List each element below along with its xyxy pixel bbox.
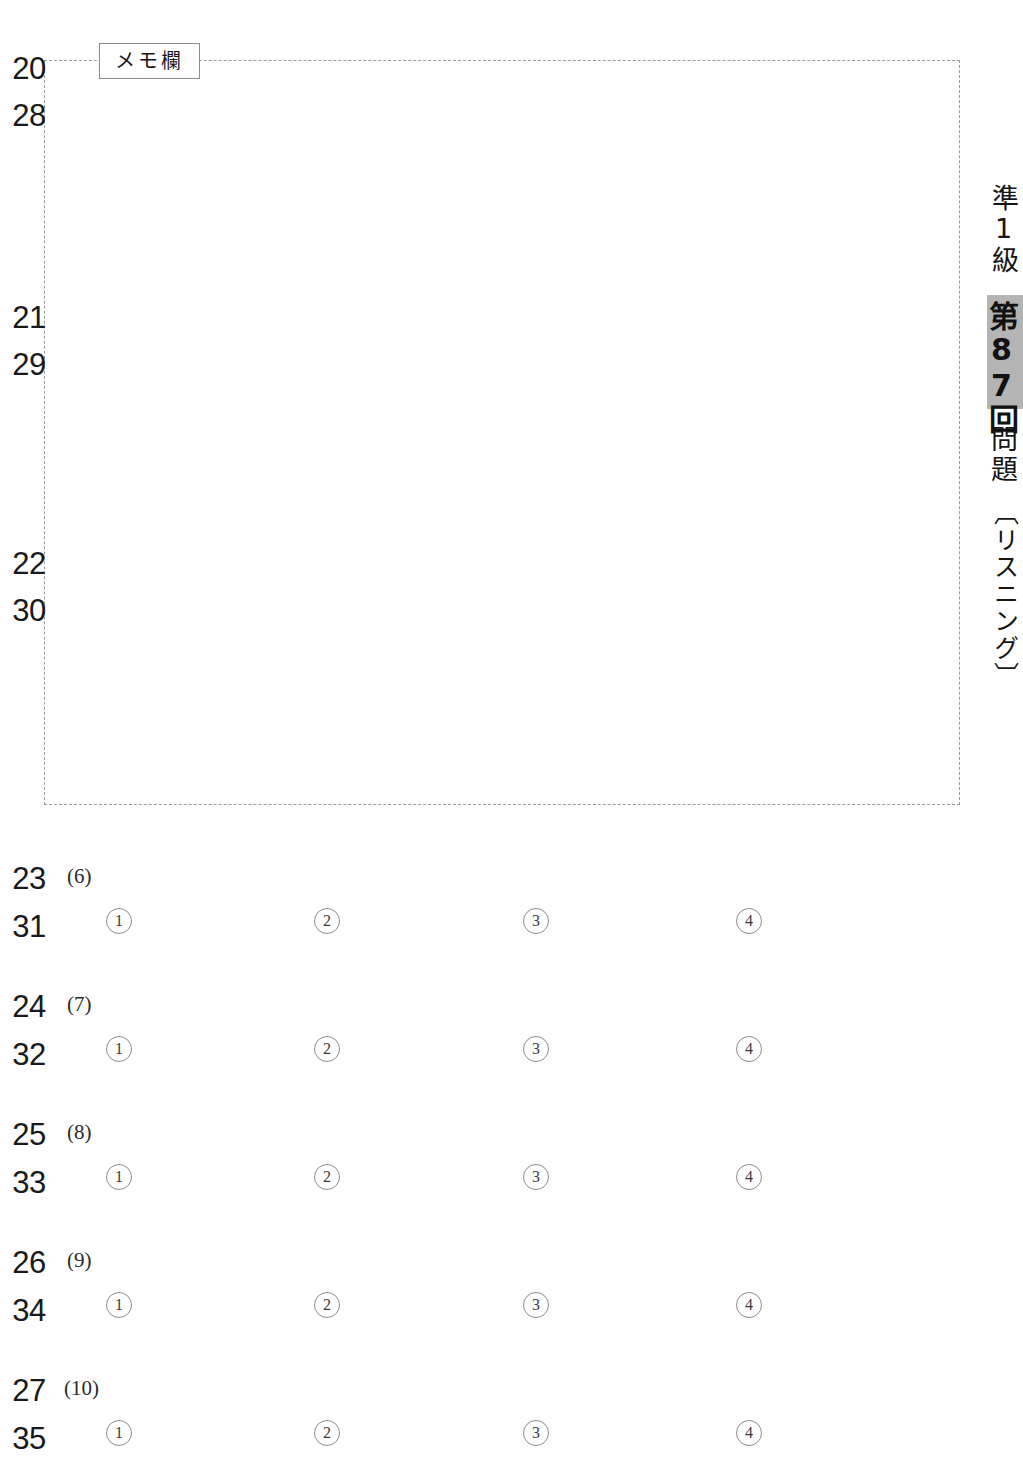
- question-8-option-4[interactable]: 4: [736, 1164, 762, 1190]
- question-7-option-1[interactable]: 1: [106, 1036, 132, 1062]
- answer-marker-label: 33: [12, 1165, 45, 1200]
- question-number-10: (10): [64, 1376, 99, 1401]
- answer-marker-label: 24: [12, 989, 45, 1024]
- question-9-option-3[interactable]: 3: [523, 1292, 549, 1318]
- session-label: 第87回: [983, 301, 1023, 435]
- answer-marker-label: 30: [12, 593, 45, 628]
- answer-marker-label: 21: [12, 300, 45, 335]
- section-label: 〔リスニング〕: [984, 500, 1022, 689]
- answer-marker-20: 20: [2, 46, 56, 92]
- answer-marker-label: 34: [12, 1293, 45, 1328]
- answer-marker-label: 28: [12, 98, 45, 133]
- question-6-option-2[interactable]: 2: [314, 908, 340, 934]
- answer-marker-26: 26: [2, 1240, 56, 1286]
- question-8-option-3[interactable]: 3: [523, 1164, 549, 1190]
- answer-marker-label: 25: [12, 1117, 45, 1152]
- answer-marker-30: 30: [2, 588, 56, 634]
- memo-area[interactable]: [44, 60, 960, 805]
- grade-label: 準1級: [985, 184, 1023, 275]
- answer-marker-28: 28: [2, 93, 56, 139]
- questions-label: 問題: [984, 425, 1022, 485]
- question-7-option-2[interactable]: 2: [314, 1036, 340, 1062]
- question-number-8: (8): [67, 1120, 92, 1145]
- answer-marker-34: 34: [2, 1288, 56, 1334]
- question-6-option-4[interactable]: 4: [736, 908, 762, 934]
- answer-marker-label: 22: [12, 546, 45, 581]
- question-7-option-4[interactable]: 4: [736, 1036, 762, 1062]
- answer-marker-label: 32: [12, 1037, 45, 1072]
- question-9-option-2[interactable]: 2: [314, 1292, 340, 1318]
- answer-marker-label: 27: [12, 1373, 45, 1408]
- question-10-option-2[interactable]: 2: [314, 1420, 340, 1446]
- memo-area-label: メモ欄: [99, 43, 200, 79]
- question-8-option-1[interactable]: 1: [106, 1164, 132, 1190]
- answer-marker-label: 20: [12, 51, 45, 86]
- question-10-option-3[interactable]: 3: [523, 1420, 549, 1446]
- question-9-option-4[interactable]: 4: [736, 1292, 762, 1318]
- question-number-6: (6): [67, 864, 92, 889]
- question-number-7: (7): [67, 992, 92, 1017]
- question-number-9: (9): [67, 1248, 92, 1273]
- question-7-option-3[interactable]: 3: [523, 1036, 549, 1062]
- answer-marker-label: 26: [12, 1245, 45, 1280]
- answer-marker-25: 25: [2, 1112, 56, 1158]
- question-10-option-1[interactable]: 1: [106, 1420, 132, 1446]
- answer-marker-33: 33: [2, 1160, 56, 1206]
- question-8-option-2[interactable]: 2: [314, 1164, 340, 1190]
- answer-marker-21: 21: [2, 295, 56, 341]
- answer-marker-label: 29: [12, 347, 45, 382]
- answer-marker-24: 24: [2, 984, 56, 1030]
- answer-marker-label: 31: [12, 909, 45, 944]
- answer-marker-31: 31: [2, 904, 56, 950]
- exam-page: メモ欄 20 28 21 29 22 30 準1級 第87回 問題 〔リスニング…: [0, 0, 1023, 1469]
- answer-marker-27: 27: [2, 1368, 56, 1414]
- answer-marker-29: 29: [2, 342, 56, 388]
- answer-marker-35: 35: [2, 1416, 56, 1462]
- answer-marker-label: 23: [12, 861, 45, 896]
- question-6-option-3[interactable]: 3: [523, 908, 549, 934]
- answer-marker-23: 23: [2, 856, 56, 902]
- answer-marker-label: 35: [12, 1421, 45, 1456]
- answer-marker-32: 32: [2, 1032, 56, 1078]
- question-10-option-4[interactable]: 4: [736, 1420, 762, 1446]
- question-6-option-1[interactable]: 1: [106, 908, 132, 934]
- question-9-option-1[interactable]: 1: [106, 1292, 132, 1318]
- answer-marker-22: 22: [2, 541, 56, 587]
